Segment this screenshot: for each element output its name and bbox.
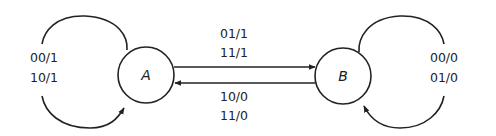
transition-a-to-b: 01/1 11/1: [174, 26, 315, 67]
state-diagram: A B 00/1 10/1 01/1 11/1 10/0 11/0 00/0 0…: [0, 0, 496, 136]
transition-a-self-label-1: 00/1: [30, 50, 58, 65]
state-a-label: A: [140, 67, 151, 83]
transition-a-to-b-label-1: 01/1: [220, 26, 248, 41]
state-b: B: [315, 48, 371, 104]
transition-a-self-label-2: 10/1: [30, 70, 58, 85]
transition-a-to-b-label-2: 11/1: [220, 45, 248, 60]
transition-b-to-a-label-1: 10/0: [220, 89, 248, 104]
state-a: A: [118, 47, 174, 103]
transition-b-to-a-label-2: 11/0: [220, 108, 248, 123]
transition-a-self: 00/1 10/1: [30, 16, 127, 128]
transition-b-self-label-1: 00/0: [430, 50, 458, 65]
state-b-label: B: [338, 68, 348, 84]
transition-b-self: 00/0 01/0: [359, 16, 458, 128]
transition-b-self-label-2: 01/0: [430, 70, 458, 85]
transition-b-to-a: 10/0 11/0: [175, 83, 315, 123]
